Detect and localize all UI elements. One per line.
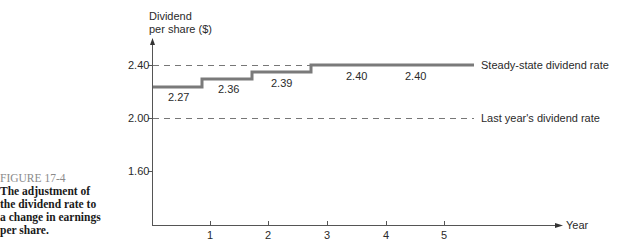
y-tick-label: 2.40 [128,59,149,71]
last-year-label: Last year's dividend rate [481,112,600,124]
steady-state-label: Steady-state dividend rate [481,59,609,71]
y-tick-label: 2.00 [128,112,149,124]
dividend-chart: Dividend per share ($) Year 2.40 2.00 1.… [0,0,620,252]
step-value-label: 2.27 [168,91,189,103]
x-axis-arrow-icon [555,223,563,228]
y-tick-label: 1.60 [128,165,149,177]
y-axis-label-line-1: Dividend [149,10,192,22]
x-tick-label: 5 [441,229,447,241]
step-value-label: 2.39 [271,77,292,89]
x-axis-label: Year [566,219,589,231]
x-tick-label: 4 [383,229,389,241]
step-value-label: 2.40 [346,70,367,82]
y-axis-label-line-2: per share ($) [149,23,212,35]
x-tick-label: 2 [265,229,271,241]
y-axis-arrow-icon [150,38,155,45]
x-tick-label: 1 [207,229,213,241]
x-tick-label: 3 [324,229,330,241]
step-value-label: 2.36 [218,83,239,95]
step-value-label: 2.40 [405,70,426,82]
